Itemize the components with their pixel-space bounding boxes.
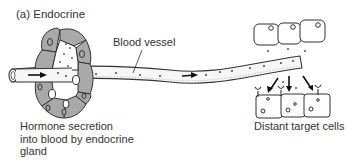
target-cells-caption: Distant target cells: [254, 120, 344, 132]
gland-caption-line-1: Hormone secretion: [20, 120, 134, 133]
gland-caption: Hormone secretion into blood by endocrin…: [20, 120, 134, 158]
target-cells[interactable]: [255, 76, 330, 118]
panel-title: (a) Endocrine: [16, 8, 85, 20]
upper-cells: [254, 20, 325, 52]
gland-caption-line-3: gland: [20, 145, 134, 158]
gland-caption-line-2: into blood by endocrine: [20, 133, 134, 146]
blood-vessel-label: Blood vessel: [113, 36, 175, 48]
